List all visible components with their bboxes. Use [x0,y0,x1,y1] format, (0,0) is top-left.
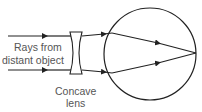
focused-rays [112,33,196,73]
concave-lens-icon [70,32,82,74]
lens-label-line2: lens [66,97,85,109]
rays-label-line2: distant object [2,54,64,66]
lens-label-line1: Concave [55,85,96,97]
rays-label-line1: Rays from [14,41,62,53]
diverging-rays [82,33,112,73]
eye-outline [104,8,196,100]
